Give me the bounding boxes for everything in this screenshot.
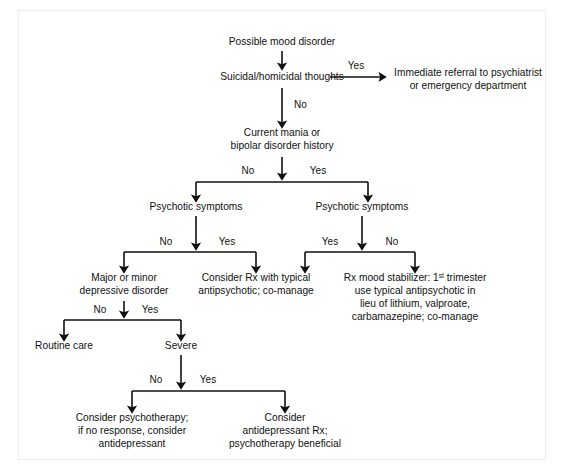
node-consider-rx-antipsychotic-line2: antipsychotic; co-manage — [198, 285, 314, 296]
node-possible-mood-disorder: Possible mood disorder — [229, 36, 336, 47]
node-consider-rx-antipsychotic: Consider Rx with typical — [202, 272, 311, 283]
node-current-mania-line2: bipolar disorder history — [230, 140, 334, 151]
node-rx-mood-stabilizer-line3: lieu of lithium, valproate, — [360, 298, 470, 309]
node-major-minor-depressive: Major or minor — [91, 272, 157, 283]
edge-label-severe-no: No — [150, 374, 163, 385]
node-consider-antidepressant-line3: psychotherapy beneficial — [229, 438, 341, 449]
mood-stabilizer-post: trimester — [444, 272, 487, 283]
node-consider-psychotherapy-line2: if no response, consider — [78, 425, 187, 436]
edge-label-psychotic-left-yes: Yes — [219, 236, 235, 247]
edge-label-psychotic-right-yes: Yes — [322, 236, 338, 247]
node-psychotic-symptoms-left: Psychotic symptoms — [150, 201, 243, 212]
edge-label-depressive-yes: Yes — [142, 304, 158, 315]
edge-label-severe-yes: Yes — [200, 374, 216, 385]
node-psychotic-symptoms-right: Psychotic symptoms — [316, 201, 409, 212]
node-rx-mood-stabilizer: Rx mood stabilizer: 1st trimester — [344, 272, 487, 283]
edge-label-suicidal-no: No — [294, 99, 307, 110]
edge-label-mania-yes: Yes — [310, 165, 326, 176]
node-routine-care: Routine care — [35, 340, 93, 351]
mood-stabilizer-pre: Rx mood stabilizer: 1 — [344, 272, 439, 283]
node-rx-mood-stabilizer-line4: carbamazepine; co-manage — [352, 311, 479, 322]
flowchart-canvas: Possible mood disorder Suicidal/homicida… — [0, 0, 564, 473]
edge-label-depressive-no: No — [94, 304, 107, 315]
node-consider-antidepressant-line2: antidepressant Rx; — [243, 425, 328, 436]
node-consider-psychotherapy-line3: antidepressant — [99, 438, 166, 449]
edge-label-psychotic-right-no: No — [386, 236, 399, 247]
node-rx-mood-stabilizer-line2: use typical antipsychotic in — [355, 285, 476, 296]
node-major-minor-depressive-line2: depressive disorder — [80, 285, 170, 296]
node-suicidal-homicidal-thoughts: Suicidal/homicidal thoughts — [220, 71, 343, 82]
node-consider-psychotherapy: Consider psychotherapy; — [76, 412, 189, 423]
node-immediate-referral-line2: or emergency department — [410, 80, 527, 91]
edge-label-suicidal-yes: Yes — [348, 60, 364, 71]
edge-label-psychotic-left-no: No — [160, 236, 173, 247]
node-consider-antidepressant: Consider — [265, 412, 306, 423]
node-immediate-referral: Immediate referral to psychiatrist — [394, 67, 542, 78]
edge-label-mania-no: No — [242, 165, 255, 176]
node-severe: Severe — [165, 340, 198, 351]
node-current-mania: Current mania or — [244, 127, 321, 138]
